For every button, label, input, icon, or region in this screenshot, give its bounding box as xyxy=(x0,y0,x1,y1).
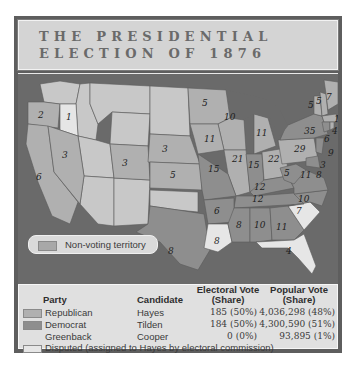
svg-text:22: 22 xyxy=(267,154,280,164)
header-party: Party xyxy=(43,295,67,305)
svg-text:10: 10 xyxy=(224,112,236,122)
non-voting-label: Non-voting territory xyxy=(65,239,146,250)
header-candidate: Candidate xyxy=(137,295,183,305)
non-voting-swatch xyxy=(38,241,57,251)
election-map: 2 1 6 3 3 3 5 5 8 10 11 11 21 15 15 22 1… xyxy=(18,73,338,284)
svg-text:7: 7 xyxy=(326,92,332,102)
row-electoral-cooper: 0 (0%) xyxy=(189,331,257,342)
svg-text:8: 8 xyxy=(168,246,174,256)
row-candidate-tilden: Tilden xyxy=(137,319,163,330)
state-kansas xyxy=(150,162,202,190)
svg-text:9: 9 xyxy=(328,148,334,158)
state-washington-territory xyxy=(40,81,80,104)
svg-text:13: 13 xyxy=(334,114,338,124)
svg-text:35: 35 xyxy=(304,126,316,136)
title-line-1: THE PRESIDENTIAL xyxy=(39,29,273,44)
row-popular-hayes: 4,036,298 (48%) xyxy=(255,307,335,318)
svg-text:8: 8 xyxy=(214,236,220,246)
row-party-democrat: Democrat xyxy=(45,319,86,330)
svg-text:6: 6 xyxy=(324,134,330,144)
state-nebraska xyxy=(148,134,200,164)
svg-text:3: 3 xyxy=(162,144,168,154)
svg-text:3: 3 xyxy=(62,150,68,160)
svg-text:21: 21 xyxy=(231,154,243,164)
header-electoral-line2: (Share) xyxy=(193,295,263,305)
svg-text:6: 6 xyxy=(214,206,220,216)
state-new-jersey xyxy=(316,138,324,154)
row-electoral-hayes: 185 (50%) xyxy=(189,307,257,318)
democrat-swatch xyxy=(23,321,42,330)
svg-text:5: 5 xyxy=(202,98,208,108)
map-frame: THE PRESIDENTIAL ELECTION OF 1876 xyxy=(14,16,342,353)
results-table: Party Candidate Electoral Vote (Share) P… xyxy=(18,284,338,349)
svg-text:2: 2 xyxy=(37,110,44,120)
svg-text:5: 5 xyxy=(284,168,290,178)
svg-text:11: 11 xyxy=(204,134,215,144)
svg-text:8: 8 xyxy=(316,170,322,180)
row-popular-cooper: 93,895 (1%) xyxy=(255,331,335,342)
svg-text:5: 5 xyxy=(316,96,322,106)
svg-text:10: 10 xyxy=(254,220,266,230)
state-delaware-maryland xyxy=(306,156,320,168)
svg-text:11: 11 xyxy=(276,222,287,232)
svg-text:11: 11 xyxy=(256,128,267,138)
state-colorado xyxy=(110,144,150,180)
disputed-swatch xyxy=(23,345,42,353)
republican-swatch xyxy=(23,309,42,318)
svg-text:29: 29 xyxy=(293,144,306,154)
svg-text:3: 3 xyxy=(122,158,128,168)
state-wyoming-territory xyxy=(110,112,150,146)
svg-text:12: 12 xyxy=(254,182,266,192)
svg-text:11: 11 xyxy=(300,170,311,180)
svg-text:6: 6 xyxy=(36,172,42,182)
svg-text:1: 1 xyxy=(66,112,72,122)
state-arizona-territory xyxy=(80,176,114,226)
svg-text:5: 5 xyxy=(170,170,176,180)
row-candidate-cooper: Cooper xyxy=(137,331,168,342)
svg-text:10: 10 xyxy=(298,194,310,204)
disputed-note: Disputed (assigned to Hayes by electoral… xyxy=(45,342,274,353)
state-dakota-territory xyxy=(150,86,190,136)
svg-text:15: 15 xyxy=(248,160,260,170)
svg-text:7: 7 xyxy=(296,206,302,216)
svg-text:4: 4 xyxy=(331,126,338,136)
svg-text:3: 3 xyxy=(320,160,326,170)
row-party-republican: Republican xyxy=(45,307,93,318)
svg-text:12: 12 xyxy=(252,194,264,204)
title-panel: THE PRESIDENTIAL ELECTION OF 1876 xyxy=(18,20,338,70)
header-electoral: Electoral Vote (Share) xyxy=(193,285,263,305)
svg-text:8: 8 xyxy=(236,220,242,230)
title-line-2: ELECTION OF 1876 xyxy=(39,46,266,61)
svg-text:4: 4 xyxy=(285,246,292,256)
state-oregon xyxy=(28,102,60,128)
state-new-mexico-territory xyxy=(114,178,150,226)
non-voting-legend: Non-voting territory xyxy=(28,235,158,254)
row-candidate-hayes: Hayes xyxy=(137,307,164,318)
header-popular: Popular Vote (Share) xyxy=(263,285,335,305)
row-popular-tilden: 4,300,590 (51%) xyxy=(255,319,335,330)
row-electoral-tilden: 184 (50%) xyxy=(189,319,257,330)
row-party-greenback: Greenback xyxy=(45,331,91,342)
header-popular-line2: (Share) xyxy=(263,295,335,305)
svg-text:15: 15 xyxy=(208,164,220,174)
svg-text:5: 5 xyxy=(308,100,314,110)
